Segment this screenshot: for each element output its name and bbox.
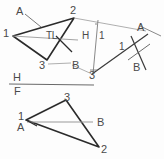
leader-line-b-extension [48, 63, 71, 64]
fold-line-h1 [93, 20, 98, 74]
label-fold-h: H [13, 72, 21, 83]
auxiliary-fold-line [90, 20, 98, 74]
fold-line-hf [9, 84, 94, 85]
triangle-123-front-view [26, 100, 99, 147]
label-line-1-auxiliary-view: 1 [119, 42, 125, 52]
label-vertex-3-front-view: 3 [64, 92, 70, 103]
label-fold-f: F [14, 86, 21, 97]
drawing-sheet: A 1 2 3 B TL H 1 A B 1 3 H F 3 1 A B 2 [0, 0, 164, 159]
leader-line-a [25, 14, 41, 27]
label-point-a-top-view: A [16, 6, 23, 17]
label-vertex-3-auxiliary-projection: 3 [89, 70, 95, 81]
hf-fold-line [9, 84, 94, 85]
label-true-length: TL [46, 31, 57, 41]
label-point-b-auxiliary-view: B [133, 62, 140, 73]
label-point-a-front-view: A [17, 122, 24, 133]
frontal-view-triangle [26, 100, 99, 147]
label-vertex-2-front-view: 2 [101, 144, 107, 155]
leader-a-top [25, 14, 41, 27]
label-vertex-2-top-view: 2 [70, 5, 76, 16]
label-fold-1-auxiliary: 1 [99, 31, 105, 41]
label-point-a-auxiliary-view: A [137, 22, 144, 33]
label-point-b-front-view: B [97, 117, 104, 128]
label-point-b-top-view: B [72, 60, 79, 71]
leader-line-b [56, 36, 72, 52]
label-vertex-1-top-view: 1 [3, 28, 9, 39]
label-vertex-3-top-view: 3 [39, 60, 45, 71]
label-fold-h-auxiliary: H [82, 31, 89, 41]
